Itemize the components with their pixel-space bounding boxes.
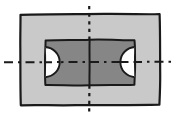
- technical-drawing-canvas: Technical drawing - plan view of rectang…: [0, 0, 173, 115]
- drawing-svg: [0, 0, 173, 115]
